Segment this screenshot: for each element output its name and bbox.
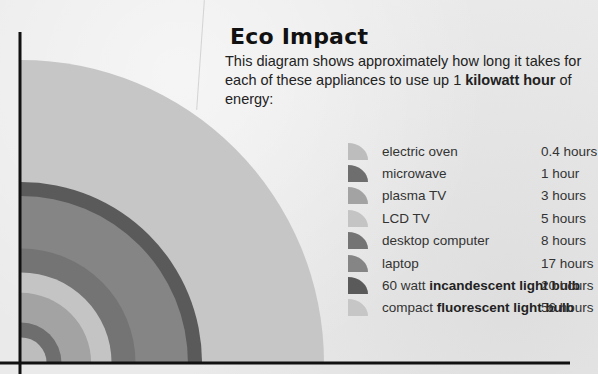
legend-value: 8 hours [541,233,586,248]
legend-label: electric oven [382,144,458,159]
legend-item-plasma-tv: plasma TV 3 hours [348,185,598,207]
legend-value: 20 hours [541,278,594,293]
legend: electric oven 0.4 hours microwave 1 hour… [348,140,598,319]
quarter-circle-swatch-icon [348,210,368,227]
legend-label: laptop [382,256,419,271]
legend-value: 5 hours [541,211,586,226]
legend-value: 17 hours [541,256,594,271]
legend-value: 56 hours [541,300,594,315]
quarter-circle-swatch-icon [348,143,368,160]
legend-label: plasma TV [382,188,446,203]
legend-item-incandescent-bulb: 60 watt incandescent light bulb 20 hours [348,274,598,296]
quarter-circle-swatch-icon [348,232,368,249]
quarter-circle-swatch-icon [348,299,368,316]
page-title: Eco Impact [230,24,368,49]
legend-value: 1 hour [541,166,579,181]
description: This diagram shows approximately how lon… [225,52,597,109]
legend-label: microwave [382,166,447,181]
quarter-circle-swatch-icon [348,187,368,204]
legend-item-fluorescent-bulb: compact fluorescent light bulb 56 hours [348,297,598,319]
quarter-circle-swatch-icon [348,165,368,182]
legend-label: desktop computer [382,233,489,248]
quarter-circle-swatch-icon [348,277,368,294]
legend-item-laptop: laptop 17 hours [348,252,598,274]
description-emphasis: kilowatt hour [465,72,555,88]
legend-label: LCD TV [382,211,430,226]
legend-item-desktop-computer: desktop computer 8 hours [348,230,598,252]
legend-item-lcd-tv: LCD TV 5 hours [348,207,598,229]
legend-item-electric-oven: electric oven 0.4 hours [348,140,598,162]
legend-value: 0.4 hours [541,144,597,159]
quarter-circle-swatch-icon [348,255,368,272]
legend-item-microwave: microwave 1 hour [348,162,598,184]
legend-value: 3 hours [541,188,586,203]
